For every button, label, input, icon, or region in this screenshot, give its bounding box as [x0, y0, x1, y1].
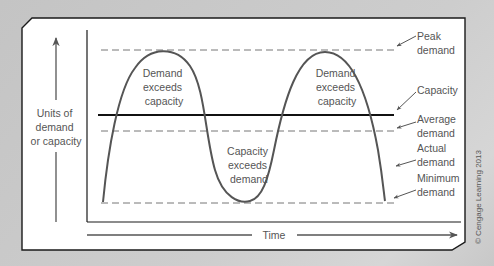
- region-label-demand-exceeds-2: Demand exceeds capacity: [316, 67, 359, 107]
- demand-capacity-diagram: Units of demand or capacity Demand excee…: [0, 0, 494, 266]
- copyright-notice: © Cengage Learning 2013: [474, 149, 483, 244]
- region-label-demand-exceeds-1: Demand exceeds capacity: [143, 67, 186, 107]
- x-axis-label: Time: [263, 229, 286, 241]
- y-axis-label: Units of demand or capacity: [31, 107, 83, 147]
- callout-capacity: Capacity: [417, 84, 459, 96]
- outer-panel: [22, 18, 465, 250]
- region-label-capacity-exceeds: Capacity exceeds demand: [227, 145, 271, 185]
